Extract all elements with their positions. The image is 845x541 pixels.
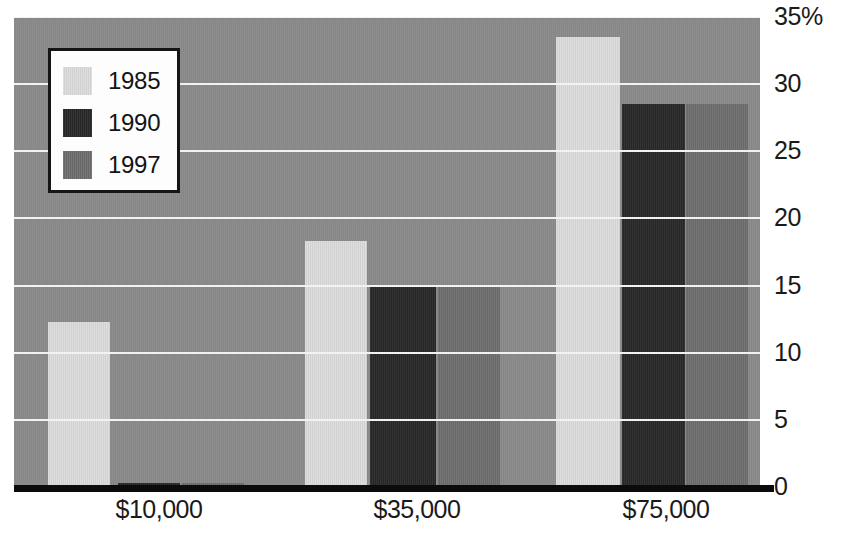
- legend-item: 1990: [51, 102, 177, 144]
- gridline-10: [14, 352, 760, 354]
- gridline-15: [14, 285, 760, 287]
- legend-swatch-1985: [63, 67, 92, 95]
- y-tick-label-0: 0: [774, 474, 788, 499]
- legend: 1985 1990 1997: [48, 48, 180, 193]
- legend-item: 1997: [51, 144, 177, 186]
- legend-label-1997: 1997: [108, 153, 160, 177]
- bar-35000-1990: [370, 286, 436, 487]
- y-tick-label-35: 35%: [774, 4, 823, 29]
- bar-10000-1985: [48, 322, 110, 487]
- legend-swatch-1990: [63, 109, 92, 137]
- bar-35000-1985: [305, 241, 367, 487]
- y-tick-label-15: 15: [774, 273, 801, 298]
- x-tick-label-35000: $35,000: [374, 497, 461, 522]
- y-axis: 35%302520151050: [768, 0, 845, 541]
- gridline-35: [14, 17, 760, 18]
- y-tick-label-25: 25: [774, 138, 801, 163]
- legend-label-1985: 1985: [108, 69, 160, 93]
- gridline-5: [14, 419, 760, 421]
- bar-75000-1997: [686, 104, 748, 487]
- y-tick-label-5: 5: [774, 407, 788, 432]
- y-tick-label-10: 10: [774, 340, 801, 365]
- x-axis: $10,000$35,000$75,000: [0, 497, 845, 541]
- legend-label-1990: 1990: [108, 111, 160, 135]
- bar-75000-1990: [622, 104, 685, 487]
- y-tick-label-20: 20: [774, 205, 801, 230]
- legend-item: 1985: [51, 60, 177, 102]
- gridline-20: [14, 217, 760, 219]
- y-tick-label-30: 30: [774, 71, 801, 96]
- bar-chart: 35%302520151050 $10,000$35,000$75,000 19…: [0, 0, 845, 541]
- x-tick-label-10000: $10,000: [116, 497, 203, 522]
- bar-35000-1997: [438, 286, 500, 487]
- x-tick-label-75000: $75,000: [623, 497, 710, 522]
- legend-swatch-1997: [63, 151, 92, 179]
- x-axis-baseline: [14, 485, 774, 492]
